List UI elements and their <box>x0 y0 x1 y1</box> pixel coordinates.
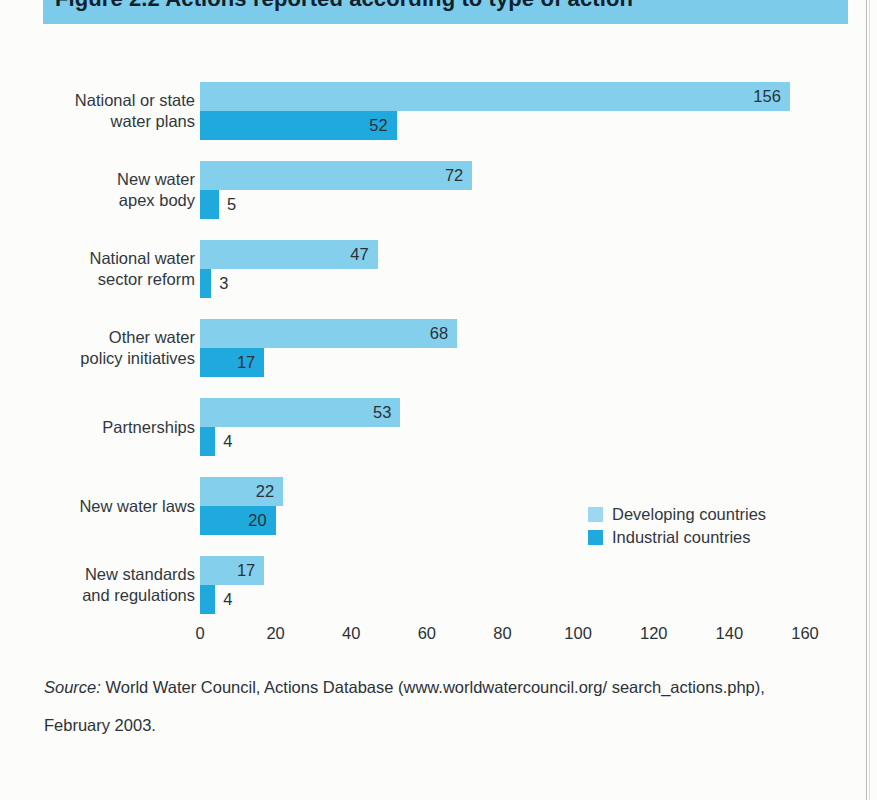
bar-value-label: 156 <box>200 82 790 111</box>
category-label-line: Partnerships <box>0 417 195 438</box>
source-note-prefix: Source: <box>44 678 101 696</box>
category-label: National watersector reform <box>0 248 195 290</box>
x-axis-tick-label: 60 <box>418 624 436 643</box>
legend-swatch-developing-icon <box>588 507 603 522</box>
category-label-line: Other water <box>0 327 195 348</box>
category-label: National or statewater plans <box>0 90 195 132</box>
bar-value-label: 52 <box>200 111 397 140</box>
category-label-line: sector reform <box>0 269 195 290</box>
bar-value-label: 4 <box>223 585 232 614</box>
bar-industrial <box>200 190 219 219</box>
bar-group: National watersector reform473 <box>0 240 877 298</box>
bar-industrial <box>200 427 215 456</box>
legend-item-industrial: Industrial countries <box>588 528 766 547</box>
category-label-line: New water <box>0 169 195 190</box>
category-label-line: policy initiatives <box>0 348 195 369</box>
bar-value-label: 47 <box>200 240 378 269</box>
bar-value-label: 17 <box>200 348 264 377</box>
source-note: Source: World Water Council, Actions Dat… <box>44 668 834 744</box>
figure-page: Figure 2.2 Actions reported according to… <box>0 0 877 800</box>
category-label: New waterapex body <box>0 169 195 211</box>
bar-value-label: 17 <box>200 556 264 585</box>
bar-value-label: 20 <box>200 506 276 535</box>
category-label-line: apex body <box>0 190 195 211</box>
bar-industrial <box>200 585 215 614</box>
bar-group: New waterapex body725 <box>0 161 877 219</box>
legend-item-developing: Developing countries <box>588 505 766 524</box>
bar-group: National or statewater plans15652 <box>0 82 877 140</box>
bar-group: New standardsand regulations174 <box>0 556 877 614</box>
x-axis-tick-label: 0 <box>195 624 204 643</box>
category-label: New standardsand regulations <box>0 564 195 606</box>
category-label-line: New water laws <box>0 496 195 517</box>
legend-label-industrial: Industrial countries <box>612 528 751 547</box>
x-axis-tick-label: 80 <box>493 624 511 643</box>
x-axis-tick-label: 20 <box>266 624 284 643</box>
bar-value-label: 3 <box>219 269 228 298</box>
x-axis-tick-label: 120 <box>640 624 668 643</box>
category-label-line: National water <box>0 248 195 269</box>
x-axis-tick-label: 40 <box>342 624 360 643</box>
category-label: New water laws <box>0 496 195 517</box>
bar-value-label: 5 <box>227 190 236 219</box>
chart-legend: Developing countries Industrial countrie… <box>588 505 766 547</box>
category-label-line: New standards <box>0 564 195 585</box>
legend-label-developing: Developing countries <box>612 505 766 524</box>
bar-industrial <box>200 269 211 298</box>
x-axis-tick-label: 140 <box>716 624 744 643</box>
bar-value-label: 22 <box>200 477 283 506</box>
category-label-line: National or state <box>0 90 195 111</box>
bar-value-label: 53 <box>200 398 400 427</box>
category-label-line: and regulations <box>0 585 195 606</box>
x-axis: 020406080100120140160 <box>0 624 877 650</box>
bar-group: Other waterpolicy initiatives6817 <box>0 319 877 377</box>
bar-value-label: 72 <box>200 161 472 190</box>
bar-group: Partnerships534 <box>0 398 877 456</box>
bar-value-label: 68 <box>200 319 457 348</box>
x-axis-tick-label: 100 <box>564 624 592 643</box>
category-label-line: water plans <box>0 111 195 132</box>
x-axis-tick-label: 160 <box>791 624 819 643</box>
category-label: Partnerships <box>0 417 195 438</box>
category-label: Other waterpolicy initiatives <box>0 327 195 369</box>
legend-swatch-industrial-icon <box>588 530 603 545</box>
bar-value-label: 4 <box>223 427 232 456</box>
source-note-text: World Water Council, Actions Database (w… <box>44 678 765 734</box>
